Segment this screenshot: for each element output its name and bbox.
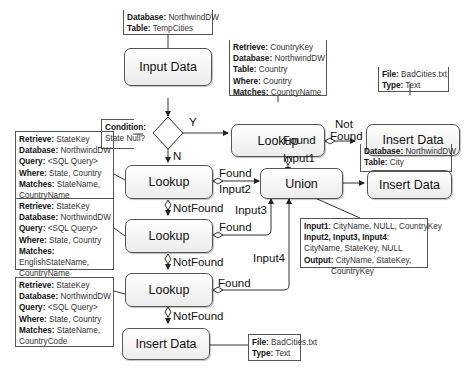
lookup-state-node-2[interactable]: Lookup (125, 219, 213, 253)
note-value: : CityName, NULL, CountryKey (329, 222, 442, 231)
input-data-node[interactable]: Input Data (124, 48, 212, 86)
edge-label-not: Not (335, 118, 353, 130)
note-key: Database: (19, 213, 58, 222)
insert-bad-cities-note-1: File: BadCities.txt Type: Text (378, 67, 449, 92)
note-value: NorthwindDW (166, 13, 219, 22)
edge-label-input4: Input4 (253, 252, 285, 264)
union-note: Input1: CityName, NULL, CountryKey Input… (300, 218, 428, 268)
note-value: NorthwindDW (58, 146, 111, 155)
note-key: Type: (252, 349, 273, 358)
note-key: Input1 (304, 222, 329, 231)
note-value: CountryKey (331, 267, 374, 276)
note-value: : (387, 233, 389, 242)
note-key: Table: (364, 158, 388, 167)
note-key: Query: (19, 303, 45, 312)
note-value: Text (273, 349, 290, 358)
note-key: Matches: (19, 247, 55, 256)
note-key: Input2, Input3, Input4 (304, 233, 387, 242)
edge-label-found-3: Found (218, 277, 251, 289)
note-key: Retrieve: (19, 202, 54, 211)
edge-label-found-word: Found (330, 130, 363, 142)
note-key: Database: (127, 13, 166, 22)
note-value: <SQL Query> (45, 157, 98, 166)
edge-label-notfound-1: NotFound (173, 202, 224, 214)
note-value: CityName, StateKey, NULL (304, 244, 403, 253)
edge-label-found-2: Found (219, 221, 252, 233)
note-value: CountryCode (19, 337, 67, 346)
note-value: NorthwindDW (272, 54, 325, 63)
note-key: Where: (19, 315, 47, 324)
edge-label-input1: Input1 (283, 152, 315, 164)
edge-label-input2: Input2 (219, 183, 251, 195)
note-value: StateKey (54, 281, 90, 290)
note-value: CountryName (269, 88, 322, 97)
note-value: StateName, (55, 180, 101, 189)
note-key: Table: (127, 24, 151, 33)
note-key: Query: (19, 224, 45, 233)
note-value: State, Country (47, 169, 102, 178)
note-value: StateKey (54, 135, 90, 144)
insert-city-note: Database: NorthwindDW Table: City (360, 144, 452, 172)
insert-city-node[interactable]: Insert Data (367, 170, 452, 199)
lookup-state-note-2: Retrieve: StateKey Database: NorthwindDW… (15, 198, 114, 270)
note-key: Where: (19, 236, 47, 245)
note-key: Type: (382, 81, 403, 90)
note-value: NorthwindDW (403, 147, 456, 156)
note-key: Retrieve: (19, 135, 54, 144)
note-value: CityName, StateKey, (334, 256, 412, 265)
note-value: State, Country (47, 236, 102, 245)
note-key: Output: (304, 256, 334, 265)
note-value: NorthwindDW (58, 292, 111, 301)
note-value: City (388, 158, 404, 167)
note-key: Query: (19, 157, 45, 166)
lookup-state-node-3[interactable]: Lookup (125, 273, 213, 307)
note-value: Text (403, 81, 420, 90)
note-value: EnglishStateName, (19, 258, 89, 267)
edge-label-input3: Input3 (235, 204, 267, 216)
note-key: Matches: (19, 326, 55, 335)
note-value: StateName, (55, 326, 101, 335)
note-value: Country (261, 77, 292, 86)
note-key: Table: (233, 65, 257, 74)
note-key: Retrieve: (233, 43, 268, 52)
union-node[interactable]: Union (260, 168, 343, 199)
edge-label-yes: Y (189, 116, 197, 128)
note-value: CountryKey (268, 43, 313, 52)
lookup-state-node-1[interactable]: Lookup (125, 165, 213, 199)
note-key: Matches: (19, 180, 55, 189)
note-value: Country (257, 65, 288, 74)
note-value: State, Country (47, 315, 102, 324)
note-value: NorthwindDW (58, 213, 111, 222)
edge-label-no: N (173, 150, 181, 162)
note-value: <SQL Query> (45, 224, 98, 233)
edge-label-found-1: Found (219, 167, 252, 179)
insert-bad-cities-note-2: File: BadCities.txt Type: Text (248, 334, 301, 361)
input-data-note: Database: NorthwindDW Table: TempCities (123, 10, 213, 35)
lookup-state-note-3: Retrieve: StateKey Database: NorthwindDW… (15, 277, 114, 347)
note-value: StateKey (54, 202, 90, 211)
edge-label-found-country: Found (283, 134, 316, 146)
note-key: File: (252, 338, 269, 347)
note-value: BadCities.txt (269, 338, 317, 347)
lookup-country-note: Retrieve: CountryKey Database: Northwind… (229, 40, 327, 96)
note-key: Where: (233, 77, 261, 86)
note-key: Where: (19, 169, 47, 178)
note-key: Matches: (233, 88, 269, 97)
note-key: Database: (19, 146, 58, 155)
note-key: Retrieve: (19, 281, 54, 290)
note-key: Database: (364, 147, 403, 156)
note-key: File: (382, 70, 399, 79)
note-key: Database: (19, 292, 58, 301)
note-key: Database: (233, 54, 272, 63)
note-value: <SQL Query> (45, 303, 98, 312)
edge-label-notfound-2: NotFound (173, 256, 224, 268)
etl-flow-diagram: Input Data Lookup Insert Data Lookup Uni… (0, 0, 465, 374)
note-value: BadCities.txt (399, 70, 447, 79)
insert-bad-cities-node-2[interactable]: Insert Data (122, 328, 210, 360)
note-value: TempCities (151, 24, 194, 33)
lookup-state-note-1: Retrieve: StateKey Database: NorthwindDW… (15, 131, 114, 199)
edge-label-notfound-3: NotFound (173, 310, 224, 322)
